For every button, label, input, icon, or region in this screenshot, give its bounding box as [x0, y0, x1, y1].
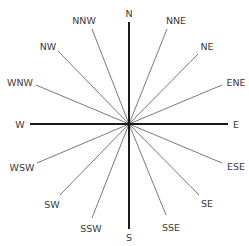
direction-line-se — [129, 124, 199, 195]
compass-rose: NNWNWWNWNNENEENEWSWSWSSWESESESSENSWE — [0, 0, 249, 246]
direction-line-wnw — [36, 85, 129, 124]
direction-label-s: S — [126, 232, 132, 243]
direction-label-wnw: WNW — [7, 77, 33, 88]
direction-line-nne — [129, 29, 167, 124]
direction-label-ne: NE — [200, 41, 213, 52]
center-point — [127, 122, 131, 126]
direction-label-sse: SSE — [162, 222, 180, 233]
direction-line-sw — [60, 124, 129, 195]
direction-label-wsw: WSW — [10, 162, 35, 173]
direction-line-nnw — [92, 29, 129, 124]
direction-label-ssw: SSW — [80, 223, 102, 234]
direction-label-e: E — [233, 119, 239, 130]
direction-label-ese: ESE — [227, 161, 245, 172]
direction-label-w: W — [15, 119, 25, 130]
direction-label-nne: NNE — [166, 15, 186, 26]
direction-line-ssw — [92, 124, 129, 218]
direction-label-nnw: NNW — [72, 15, 96, 26]
direction-label-ene: ENE — [226, 77, 245, 88]
direction-line-ene — [129, 85, 222, 124]
direction-label-nw: NW — [40, 41, 57, 52]
direction-line-ne — [129, 54, 198, 124]
direction-line-wsw — [37, 124, 129, 163]
direction-label-n: N — [125, 8, 132, 19]
direction-label-se: SE — [201, 198, 213, 209]
direction-label-sw: SW — [44, 199, 60, 210]
direction-line-nw — [58, 51, 129, 124]
